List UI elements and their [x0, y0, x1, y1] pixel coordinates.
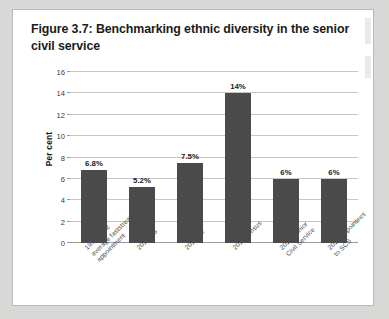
- y-axis-tick-label: 12: [57, 110, 65, 119]
- bar-slot: 14%: [214, 72, 262, 243]
- bar[interactable]: [225, 93, 251, 243]
- bar-value-label: 6%: [328, 168, 339, 177]
- x-axis-label-slot: 2010 G6: [118, 246, 166, 302]
- bar-value-label: 14%: [230, 82, 246, 91]
- y-axis-tick-label: 16: [57, 68, 65, 77]
- y-axis-tick-label: 10: [57, 132, 65, 141]
- bar-slot: 6%: [310, 72, 358, 243]
- x-axis-label-slot: 2010 G7: [166, 246, 214, 302]
- bar-value-label: 7.5%: [181, 152, 199, 161]
- page-title: Figure 3.7: Benchmarking ethnic diversit…: [31, 21, 361, 54]
- y-axis-tick-label: 2: [61, 217, 65, 226]
- y-axis-tick-label: 6: [61, 174, 65, 183]
- x-axis-label-slot: 1998-2002average faststreamappointment: [70, 246, 118, 302]
- scan-artifact: [365, 56, 371, 78]
- bar-value-label: 5.2%: [133, 176, 151, 185]
- bar-chart: Per cent 0246810121416 6.8%5.2%7.5%14%6%…: [23, 66, 367, 302]
- x-axis-label-slot: 2019 Appointeesto SCS: [310, 246, 358, 302]
- x-axis-label-slot: 2019 SeniorCivil Service: [262, 246, 310, 302]
- figure-card: Figure 3.7: Benchmarking ethnic diversit…: [12, 9, 374, 306]
- y-axis-tick-label: 14: [57, 89, 65, 98]
- bar-slot: 6%: [262, 72, 310, 243]
- scan-artifact: [365, 18, 371, 44]
- x-axis-label-slot: 2011 census: [214, 246, 262, 302]
- bar-value-label: 6.8%: [85, 159, 103, 168]
- page-background: Figure 3.7: Benchmarking ethnic diversit…: [0, 0, 389, 319]
- x-axis-labels: 1998-2002average faststreamappointment20…: [70, 246, 358, 302]
- bar-slot: 7.5%: [166, 72, 214, 243]
- y-axis-title: Per cent: [44, 109, 54, 189]
- bar-value-label: 6%: [280, 168, 291, 177]
- y-axis-tick-label: 4: [61, 196, 65, 205]
- y-axis-tick-label: 0: [61, 239, 65, 248]
- y-axis-tick-label: 8: [61, 153, 65, 162]
